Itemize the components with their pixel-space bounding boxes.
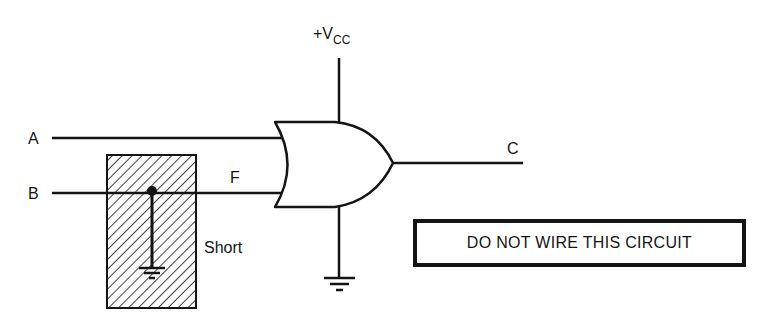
gate-ground-icon (324, 278, 355, 290)
label-node-f: F (230, 170, 240, 186)
label-input-b: B (28, 186, 39, 202)
warning-text: DO NOT WIRE THIS CIRCUIT (467, 234, 692, 252)
label-vcc-sub: CC (333, 33, 350, 47)
warning-box: DO NOT WIRE THIS CIRCUIT (413, 219, 746, 267)
label-output-c: C (507, 141, 519, 157)
or-gate-icon (275, 122, 393, 207)
label-short: Short (204, 240, 242, 256)
label-vcc-main: +V (313, 25, 333, 42)
label-vcc: +VCC (313, 26, 350, 42)
circuit-schematic (0, 0, 766, 317)
label-input-a: A (28, 131, 39, 147)
